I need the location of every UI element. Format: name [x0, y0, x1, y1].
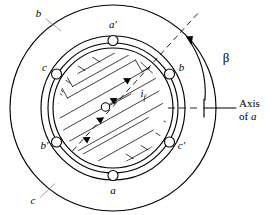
axis-of-a-italic: a: [251, 110, 257, 122]
slot-circle-b: [165, 69, 175, 79]
current-arrow-d: [83, 137, 91, 144]
stator-inner-bore-circle: [41, 36, 185, 180]
label-slot-a-prime: a′: [109, 18, 118, 30]
label-slot-a: a: [110, 184, 116, 196]
rotor-center-marker: [101, 103, 109, 111]
slot-circle-c: [52, 69, 62, 79]
field-conductor-bars: [60, 67, 163, 156]
label-axis-of-a-line2: of a: [239, 110, 257, 122]
label-slot-b: b: [179, 61, 185, 73]
label-slot-c-prime: c′: [178, 139, 186, 151]
axis-of-prefix: of: [239, 110, 251, 122]
label-field-current: if: [141, 87, 148, 102]
beta-angle-indicator: [187, 36, 206, 100]
field-coil-turn-3: [78, 36, 159, 182]
slot-circle-a: [108, 171, 118, 181]
current-arrow-a: [123, 78, 131, 85]
label-c-outer: c: [31, 194, 36, 206]
label-slot-b-prime: b′: [41, 139, 50, 151]
machine-cross-section-svg: b c a′ b c′ a b′ c if β Axis of a: [0, 0, 278, 215]
label-b-outer: b: [36, 7, 42, 19]
winding-overhang-bottom: [93, 124, 168, 169]
rotor-axis-dashed-line: [73, 11, 201, 151]
label-axis-of-a-line1: Axis: [239, 97, 260, 109]
synchronous-machine-figure: b c a′ b c′ a b′ c if β Axis of a: [0, 0, 278, 215]
label-slot-c: c: [42, 61, 47, 73]
slot-circle-b-prime: [52, 137, 62, 147]
leader-line-c-outer: [40, 184, 55, 198]
winding-overhang-top: [58, 47, 133, 92]
rotor-outer-circle: [48, 43, 178, 173]
slot-circle-c-prime: [165, 137, 175, 147]
label-beta-angle: β: [223, 50, 230, 65]
slot-circle-a-prime: [108, 36, 118, 46]
rotor-field-winding-group: [47, 36, 180, 182]
